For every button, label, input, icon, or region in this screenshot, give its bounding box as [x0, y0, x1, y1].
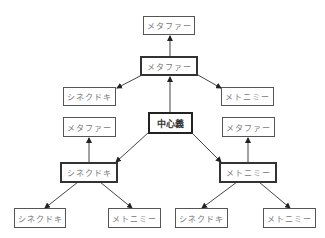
node-upper-metaphor: メタファー: [140, 56, 198, 76]
node-right-metaphor: メタファー: [222, 117, 275, 137]
node-left-metaphor: メタファー: [63, 117, 116, 137]
node-upper-metonymy: メトニミー: [221, 87, 274, 106]
edge-right-metonymy-to-bottom-synecdoche: [202, 182, 237, 208]
edge-left-synecdoche-to-bottom-synecdoche: [45, 182, 78, 208]
edge-center-to-left-synecdoche: [116, 133, 148, 162]
edge-upper-metaphor-to-metonymy: [198, 75, 221, 88]
node-bottom-lr-metonymy: メトニミー: [108, 208, 161, 228]
node-right-metonymy: メトニミー: [219, 162, 277, 183]
node-bottom-rr-metonymy: メトニミー: [263, 208, 316, 228]
meaning-extension-diagram: メタファー メタファー シネクドキ メトニミー 中心義 メタファー メタファー …: [0, 0, 325, 238]
edge-left-synecdoche-to-bottom-metonymy: [100, 182, 132, 208]
node-center-meaning: 中心義: [148, 112, 193, 134]
edge-right-metonymy-to-bottom-metonymy: [259, 182, 290, 208]
edge-upper-metaphor-to-synecdoche: [117, 75, 142, 88]
node-bottom-rl-synecdoche: シネクドキ: [175, 208, 228, 228]
edge-center-to-right-metonymy: [192, 133, 221, 162]
node-upper-synecdoche: シネクドキ: [63, 87, 116, 106]
node-top-metaphor: メタファー: [143, 16, 195, 35]
node-bottom-ll-synecdoche: シネクドキ: [14, 208, 66, 228]
node-left-synecdoche: シネクドキ: [60, 162, 118, 183]
